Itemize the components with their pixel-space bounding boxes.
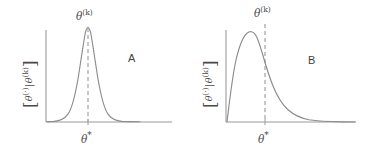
panel-letter-b: B xyxy=(308,55,315,66)
theta-star-label-b: θ* xyxy=(258,131,269,144)
panel-a: θ(k) θ* A [θ(·)|θ(k)] xyxy=(0,0,184,155)
theta-k-superscript: (k) xyxy=(201,67,210,77)
theta-star-superscript: * xyxy=(264,130,269,140)
panel-letter-a: A xyxy=(128,53,135,64)
close-bracket: ] xyxy=(20,60,40,67)
panel-b: θ(k) θ* B [θ(·)|θ(k)] xyxy=(184,0,368,155)
theta-star-label-a: θ* xyxy=(81,131,92,144)
theta-star-superscript: * xyxy=(87,130,92,140)
density-curve-b xyxy=(227,32,355,122)
open-bracket: [ xyxy=(200,101,220,108)
y-axis-label-a: [θ(·)|θ(k)] xyxy=(22,60,39,108)
theta-k-label-a: θ(k) xyxy=(76,9,93,21)
theta-glyph: θ xyxy=(23,96,34,102)
theta-k-superscript: (k) xyxy=(260,5,270,14)
conditional-bar: | xyxy=(203,83,214,87)
theta-dot-superscript: (·) xyxy=(21,87,30,95)
theta-glyph: θ xyxy=(203,96,214,102)
theta-k-label-b: θ(k) xyxy=(254,6,271,18)
y-axis-label-b: [θ(·)|θ(k)] xyxy=(202,60,219,108)
theta-glyph: θ xyxy=(23,77,34,83)
theta-k-superscript: (k) xyxy=(82,8,92,17)
conditional-bar: | xyxy=(23,83,34,87)
density-curve-a xyxy=(47,27,140,122)
open-bracket: [ xyxy=(20,101,40,108)
theta-dot-superscript: (·) xyxy=(201,87,210,95)
theta-glyph: θ xyxy=(203,77,214,83)
theta-k-superscript: (k) xyxy=(21,67,30,77)
close-bracket: ] xyxy=(200,60,220,67)
two-panel-distribution-figure: θ(k) θ* A [θ(·)|θ(k)] θ(k) xyxy=(0,0,368,155)
